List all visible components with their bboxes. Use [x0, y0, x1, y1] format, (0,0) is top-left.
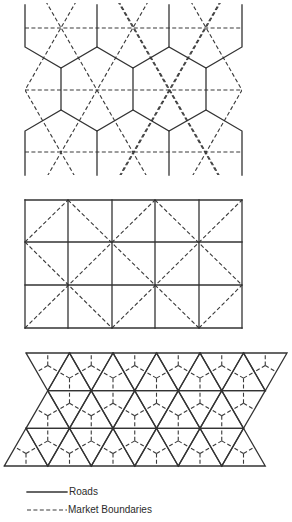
market-boundary-line: [80, 441, 91, 447]
square-market-boundaries: [25, 200, 242, 328]
market-boundary-line: [68, 200, 199, 328]
hex-market-boundaries: [0, 0, 292, 190]
legend-lines: [27, 492, 67, 510]
triangular-road-panel: [4, 353, 287, 466]
market-boundary-line: [59, 372, 70, 378]
market-boundary-line: [48, 441, 59, 447]
road-segment: [25, 5, 242, 68]
market-boundary-line: [113, 372, 124, 378]
market-boundary-line: [124, 441, 135, 447]
tri-roads: [4, 353, 287, 466]
market-boundary-line: [135, 441, 146, 447]
market-boundary-line: [91, 366, 102, 372]
market-boundary-line: [178, 441, 189, 447]
market-boundary-line: [91, 441, 102, 447]
market-boundary-line: [102, 403, 113, 409]
market-boundary-line: [113, 403, 124, 409]
road-segment: [25, 110, 242, 175]
market-boundary-line: [189, 372, 200, 378]
market-boundary-line: [48, 410, 59, 416]
market-boundary-line: [70, 403, 81, 409]
market-boundary-line: [244, 372, 255, 378]
market-boundary-line: [70, 372, 81, 378]
market-boundary-line: [146, 447, 157, 453]
market-boundary-line: [113, 447, 124, 453]
market-boundary-line: [222, 366, 233, 372]
market-boundary-line: [15, 447, 26, 453]
market-boundary-line: [167, 366, 178, 372]
market-boundary-line: [254, 366, 265, 372]
market-boundary-line: [211, 366, 222, 372]
market-boundary-line: [48, 366, 59, 372]
market-boundary-line: [37, 366, 48, 372]
market-boundary-line: [124, 366, 135, 372]
market-boundary-line: [102, 447, 113, 453]
market-boundary-line: [222, 410, 233, 416]
market-boundary-line: [59, 403, 70, 409]
market-boundary-line: [135, 366, 146, 372]
market-boundary-line: [189, 447, 200, 453]
market-boundary-line: [25, 200, 155, 328]
market-boundary-line: [157, 372, 168, 378]
market-boundary-line: [91, 410, 102, 416]
market-boundary-line: [211, 441, 222, 447]
market-boundary-line: [199, 285, 242, 328]
market-boundary-line: [102, 372, 113, 378]
market-boundary-line: [59, 447, 70, 453]
market-boundary-line: [167, 410, 178, 416]
market-boundary-line: [157, 403, 168, 409]
market-boundary-line: [233, 447, 244, 453]
legend-market-boundaries-label: Market Boundaries: [68, 504, 152, 516]
market-boundary-line: [146, 403, 157, 409]
market-boundary-line: [112, 200, 242, 328]
square-road-panel: [25, 200, 242, 328]
market-boundary-line: [80, 410, 91, 416]
market-boundary-line: [70, 447, 81, 453]
market-boundary-line: [167, 441, 178, 447]
market-boundary-line: [233, 372, 244, 378]
market-boundary-line: [244, 403, 255, 409]
market-boundary-line: [200, 447, 211, 453]
market-boundary-line: [200, 372, 211, 378]
market-boundary-line: [37, 441, 48, 447]
market-boundary-line: [200, 403, 211, 409]
market-boundary-line: [222, 441, 233, 447]
market-boundary-line: [178, 410, 189, 416]
market-boundary-line: [157, 447, 168, 453]
hexagonal-road-panel: [0, 0, 292, 190]
market-boundary-line: [211, 410, 222, 416]
market-boundary-line: [233, 403, 244, 409]
market-boundary-line: [124, 410, 135, 416]
market-boundary-line: [244, 447, 255, 453]
market-boundary-line: [25, 200, 68, 242]
market-boundary-line: [26, 447, 37, 453]
market-patterns-diagram: [0, 0, 292, 522]
market-boundary-line: [189, 403, 200, 409]
market-boundary-line: [37, 410, 48, 416]
market-boundary-line: [178, 366, 189, 372]
market-boundary-line: [265, 366, 276, 372]
market-boundary-line: [146, 372, 157, 378]
legend-roads-label: Roads: [69, 486, 98, 498]
market-boundary-line: [135, 410, 146, 416]
market-boundary-line: [80, 366, 91, 372]
